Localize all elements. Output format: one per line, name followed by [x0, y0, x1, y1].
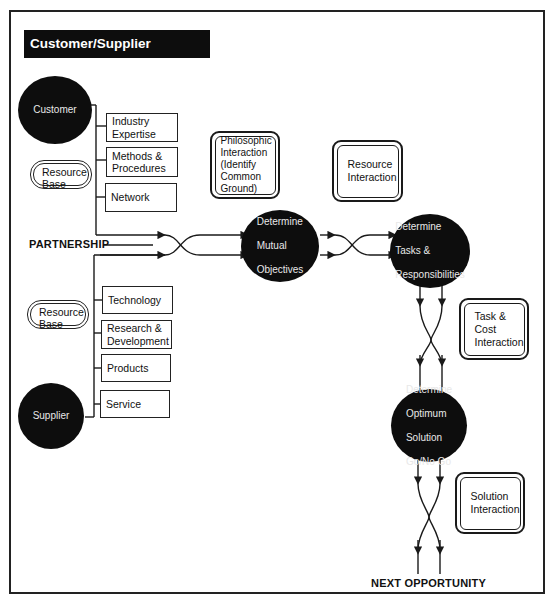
resource-text: Products: [107, 362, 148, 375]
node-text: Go/No Go: [406, 456, 452, 468]
philosophic-interaction-box: PhilosophicInteraction(IdentifyCommonGro…: [210, 131, 280, 199]
node-text: Tasks &: [395, 245, 464, 257]
tasks-responsibilities-node: DetermineTasks &Responsibilities: [390, 214, 470, 288]
interaction-text: Interaction: [221, 147, 268, 158]
resource-base-text: Resource: [42, 166, 87, 178]
interaction-text: Task &: [475, 310, 507, 322]
resource-text: Methods &: [112, 150, 162, 162]
customer-resource-base: ResourceBase: [30, 160, 92, 189]
node-text: Optimum: [406, 408, 452, 420]
interaction-text: Common: [221, 171, 262, 182]
mutual-objectives-node: DetermineMutualObjectives: [241, 210, 319, 282]
resource-text: Expertise: [112, 128, 156, 140]
resource-products: Products: [101, 354, 171, 382]
node-text: Objectives: [257, 264, 304, 276]
interaction-text: Philosophic: [221, 135, 272, 146]
supplier-node: Supplier: [18, 383, 84, 449]
node-text: Mutual: [257, 240, 304, 252]
resource-interaction-box: ResourceInteraction: [332, 140, 403, 202]
resource-industry-expertise: IndustryExpertise: [106, 113, 178, 142]
resource-technology: Technology: [102, 286, 173, 314]
resource-text: Research &: [107, 322, 162, 334]
interaction-text: Resource: [348, 158, 393, 170]
resource-text: Industry: [112, 115, 149, 127]
resource-text: Network: [111, 191, 150, 204]
resource-base-text: Base: [39, 318, 63, 330]
node-text: Responsibilities: [395, 269, 464, 281]
next-opportunity-label: NEXT OPPORTUNITY: [371, 577, 486, 589]
task-cost-interaction-box: Task &CostInteraction: [459, 298, 529, 360]
resource-text: Technology: [108, 294, 161, 307]
interaction-text: Interaction: [348, 171, 397, 183]
solution-interaction-box: SolutionInteraction: [455, 472, 525, 534]
partnership-label: PARTNERSHIP: [29, 238, 109, 250]
node-text: Determine: [257, 216, 304, 228]
interaction-text: Ground): [221, 183, 258, 194]
interaction-text: Interaction: [471, 503, 520, 515]
customer-node: Customer: [18, 76, 92, 144]
interaction-text: Solution: [471, 490, 509, 502]
resource-methods-procedures: Methods &Procedures: [106, 147, 178, 177]
resource-service: Service: [100, 390, 170, 418]
customer-label: Customer: [33, 104, 76, 116]
interaction-text: Interaction: [475, 336, 524, 348]
node-text: Solution: [406, 432, 452, 444]
resource-research-development: Research &Development: [101, 320, 172, 349]
resource-base-text: Resource: [39, 306, 84, 318]
interaction-text: Cost: [475, 323, 497, 335]
supplier-label: Supplier: [33, 410, 70, 422]
resource-network: Network: [105, 183, 177, 212]
resource-text: Development: [107, 335, 169, 347]
resource-text: Service: [106, 398, 141, 411]
node-text: Determine: [406, 384, 452, 396]
node-text: Determine: [395, 221, 464, 233]
resource-text: Procedures: [112, 162, 166, 174]
optimum-solution-node: DetermineOptimumSolutionGo/No Go: [391, 389, 467, 462]
resource-base-text: Base: [42, 178, 66, 190]
interaction-text: (Identify: [221, 159, 257, 170]
supplier-resource-base: ResourceBase: [27, 300, 89, 329]
